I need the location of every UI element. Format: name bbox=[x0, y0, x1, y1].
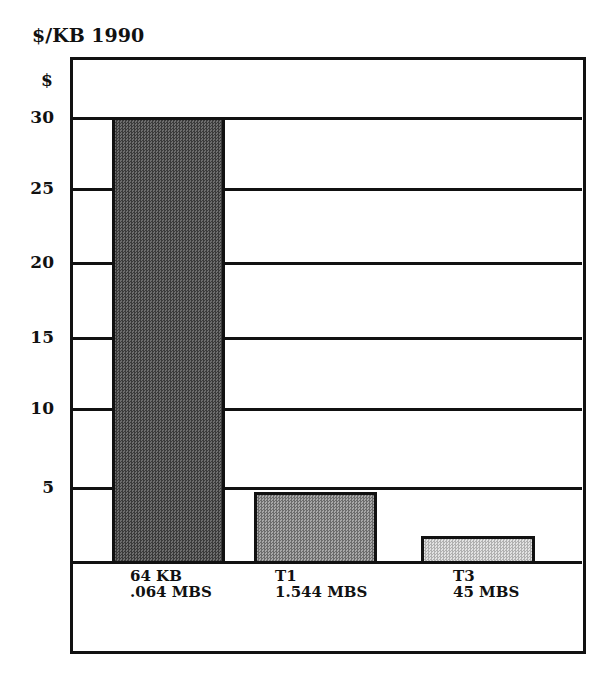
x-label-t1-line1: T1 bbox=[275, 568, 367, 584]
y-tick-10: 10 bbox=[14, 398, 54, 418]
x-label-64kb-line2: .064 MBS bbox=[130, 584, 212, 600]
y-tick-5: 5 bbox=[14, 477, 54, 497]
y-tick-20: 20 bbox=[14, 252, 54, 272]
x-label-64kb-line1: 64 KB bbox=[130, 568, 212, 584]
x-label-64kb: 64 KB .064 MBS bbox=[130, 568, 212, 600]
x-label-t3-line1: T3 bbox=[453, 568, 519, 584]
y-tick-15: 15 bbox=[14, 327, 54, 347]
x-label-t3: T3 45 MBS bbox=[453, 568, 519, 600]
y-tick-30: 30 bbox=[14, 107, 54, 127]
bar-t3 bbox=[421, 536, 535, 564]
x-label-t1-line2: 1.544 MBS bbox=[275, 584, 367, 600]
y-tick-25: 25 bbox=[14, 178, 54, 198]
x-label-t1: T1 1.544 MBS bbox=[275, 568, 367, 600]
y-axis-unit-label: $ bbox=[41, 70, 53, 90]
bar-64kb bbox=[112, 117, 225, 564]
chart-title: $/KB 1990 bbox=[32, 24, 144, 46]
x-label-t3-line2: 45 MBS bbox=[453, 584, 519, 600]
bar-t1 bbox=[254, 492, 377, 564]
